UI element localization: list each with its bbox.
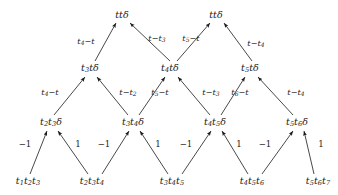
node-n1-1: t3t4δ [122,116,144,128]
edge-arrow [30,131,47,174]
edge-label-e2: −1 [98,139,111,149]
edge-label-e13: t−t4 [287,87,304,97]
node-n1-0: t2t3δ [40,116,62,128]
edge-arrow [304,131,314,174]
node-n0-4: t5t6t7 [306,175,330,187]
edge-arrow [182,131,211,174]
node-n2-1: t4tδ [161,62,179,74]
edge-label-e0: −1 [19,139,32,149]
edge-arrow [58,131,88,174]
edge-label-e15: t−t3 [148,33,165,43]
edge-label-e10: t5−t [151,87,168,97]
node-n3-0: ttδ [115,9,129,20]
node-n2-0: t3tδ [81,62,99,74]
node-n1-3: t5t6δ [286,116,308,128]
edge-label-e9: t−t2 [119,87,136,97]
edge-arrow [54,77,85,115]
edge-label-e5: 1 [236,139,241,149]
node-n0-1: t2t3t4 [80,175,104,187]
node-n3-1: ttδ [209,9,223,20]
node-n1-2: t4t5δ [204,116,226,128]
edge-arrow [95,23,116,61]
node-n2-2: t5tδ [241,62,259,74]
edge-label-e12: t6−t [231,87,248,97]
edge-arrow [262,131,293,174]
edge-arrow [140,131,168,174]
node-n0-2: t3t4t5 [160,175,184,187]
edge-label-e17: t−t4 [247,38,264,48]
node-n0-3: t4t5t6 [240,175,264,187]
edge-label-e4: −1 [180,139,193,149]
edge-label-e16: t5−t [182,33,199,43]
edge-label-e3: 1 [155,139,160,149]
edge-label-e7: 1 [318,139,323,149]
edge-label-e1: 1 [75,139,80,149]
node-n0-0: t1t2t3 [16,175,40,187]
edge-label-e14: t4−t [77,36,94,46]
edge-label-e8: t4−t [41,87,58,97]
edge-layer [0,0,338,195]
edge-label-e11: t−t3 [202,87,219,97]
edge-arrow [102,131,129,174]
edge-label-e6: −1 [259,139,272,149]
recurrence-diagram: ttδttδt3tδt4tδt5tδt2t3δt3t4δt4t5δt5t6δt1… [0,0,338,195]
edge-arrow [222,131,248,174]
edge-group [30,23,314,174]
